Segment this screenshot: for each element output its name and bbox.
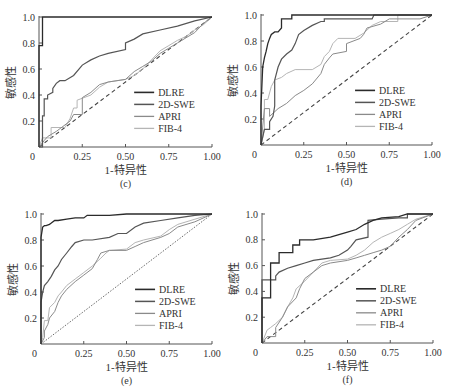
- legend-label: APRI: [159, 308, 182, 319]
- y-tick-label: 0.6: [23, 64, 36, 75]
- panel-label: (e): [121, 375, 132, 387]
- y-tick-label: 0.4: [25, 287, 38, 298]
- x-tick-label: 0.25: [74, 151, 92, 162]
- legend-label: FIB-4: [379, 121, 403, 132]
- x-tick-label: 1.00: [424, 347, 442, 358]
- x-tick-label: 1.00: [203, 151, 221, 162]
- y-tick-label: 0.8: [245, 36, 258, 47]
- legend-label: DLRE: [158, 87, 184, 98]
- legend-label: DLRE: [380, 283, 406, 294]
- y-tick-label: 0.2: [25, 313, 38, 324]
- y-tick-label: 0.6: [25, 261, 38, 272]
- x-tick-label: 0.25: [295, 149, 313, 160]
- y-axis-label: 敏感性: [226, 64, 239, 97]
- x-tick-label: 0.50: [339, 347, 357, 358]
- origin-label: 0: [253, 347, 258, 358]
- y-tick-label: 0.4: [245, 88, 258, 99]
- y-tick-label: 1.0: [245, 10, 258, 21]
- origin-label: 0: [252, 149, 257, 160]
- x-tick-label: 0.75: [160, 151, 178, 162]
- y-tick-label: 0.4: [23, 90, 36, 101]
- reference-diagonal: [261, 15, 432, 145]
- legend: DLRE2D-SWEAPRIFIB-4: [355, 85, 416, 132]
- y-axis-label: 敏感性: [227, 262, 240, 295]
- legend: DLRE2D-SWEAPRIFIB-4: [356, 283, 417, 330]
- y-tick-label: 1.0: [23, 12, 36, 23]
- legend-label: FIB-4: [159, 320, 183, 331]
- reference-diagonal: [262, 214, 433, 343]
- legend: DLRE2D-SWEAPRIFIB-4: [135, 284, 196, 331]
- roc-panel-3: 0.20.40.60.81.000.250.500.751.001-特异性敏感性…: [227, 209, 442, 387]
- legend-label: DLRE: [159, 284, 185, 295]
- x-tick-label: 1.00: [423, 149, 441, 160]
- roc-panel-2: 0.20.40.60.81.000.250.500.751.001-特异性敏感性…: [6, 209, 221, 388]
- x-tick-label: 1.00: [203, 348, 221, 359]
- roc-panel-1: 0.20.40.60.81.000.250.500.751.001-特异性敏感性…: [226, 10, 441, 189]
- y-tick-label: 0.4: [246, 286, 259, 297]
- roc-figure: 0.20.40.60.81.000.250.500.751.001-特异性敏感性…: [0, 0, 450, 390]
- legend-label: APRI: [158, 111, 181, 122]
- x-tick-label: 0.50: [117, 151, 135, 162]
- legend-label: DLRE: [379, 85, 405, 96]
- legend: DLRE2D-SWEAPRIFIB-4: [134, 87, 195, 134]
- legend-label: 2D-SWE: [159, 296, 196, 307]
- y-tick-label: 0.2: [245, 114, 258, 125]
- y-tick-label: 0.6: [246, 260, 259, 271]
- y-tick-label: 1.0: [246, 209, 259, 220]
- legend-label: 2D-SWE: [158, 99, 195, 110]
- y-tick-label: 0.2: [246, 312, 259, 323]
- panel-label: (f): [343, 374, 353, 386]
- panel-label: (d): [341, 176, 353, 188]
- legend-label: APRI: [380, 307, 403, 318]
- x-tick-label: 0.75: [161, 348, 179, 359]
- y-tick-label: 1.0: [25, 209, 38, 220]
- panel-label: (c): [120, 178, 131, 190]
- x-tick-label: 0.25: [75, 348, 93, 359]
- x-tick-label: 0.75: [381, 149, 399, 160]
- y-tick-label: 0.2: [23, 116, 36, 127]
- origin-label: 0: [32, 348, 37, 359]
- x-tick-label: 0.25: [296, 347, 314, 358]
- x-tick-label: 0.75: [382, 347, 400, 358]
- legend-label: 2D-SWE: [379, 97, 416, 108]
- legend-label: 2D-SWE: [380, 295, 417, 306]
- x-axis-label: 1-特异性: [325, 161, 367, 174]
- y-axis-label: 敏感性: [6, 263, 19, 296]
- y-tick-label: 0.8: [23, 38, 36, 49]
- y-tick-label: 0.8: [25, 235, 38, 246]
- x-axis-label: 1-特异性: [104, 163, 146, 176]
- x-axis-label: 1-特异性: [105, 360, 147, 373]
- y-axis-label: 敏感性: [4, 66, 17, 99]
- x-axis-label: 1-特异性: [326, 359, 368, 372]
- legend-label: FIB-4: [158, 123, 182, 134]
- x-tick-label: 0.50: [338, 149, 356, 160]
- roc-panel-0: 0.20.40.60.81.000.250.500.751.001-特异性敏感性…: [4, 12, 221, 191]
- y-tick-label: 0.8: [246, 234, 259, 245]
- y-tick-label: 0.6: [245, 62, 258, 73]
- origin-label: 0: [30, 151, 35, 162]
- legend-label: FIB-4: [380, 319, 404, 330]
- x-tick-label: 0.50: [118, 348, 136, 359]
- legend-label: APRI: [379, 109, 402, 120]
